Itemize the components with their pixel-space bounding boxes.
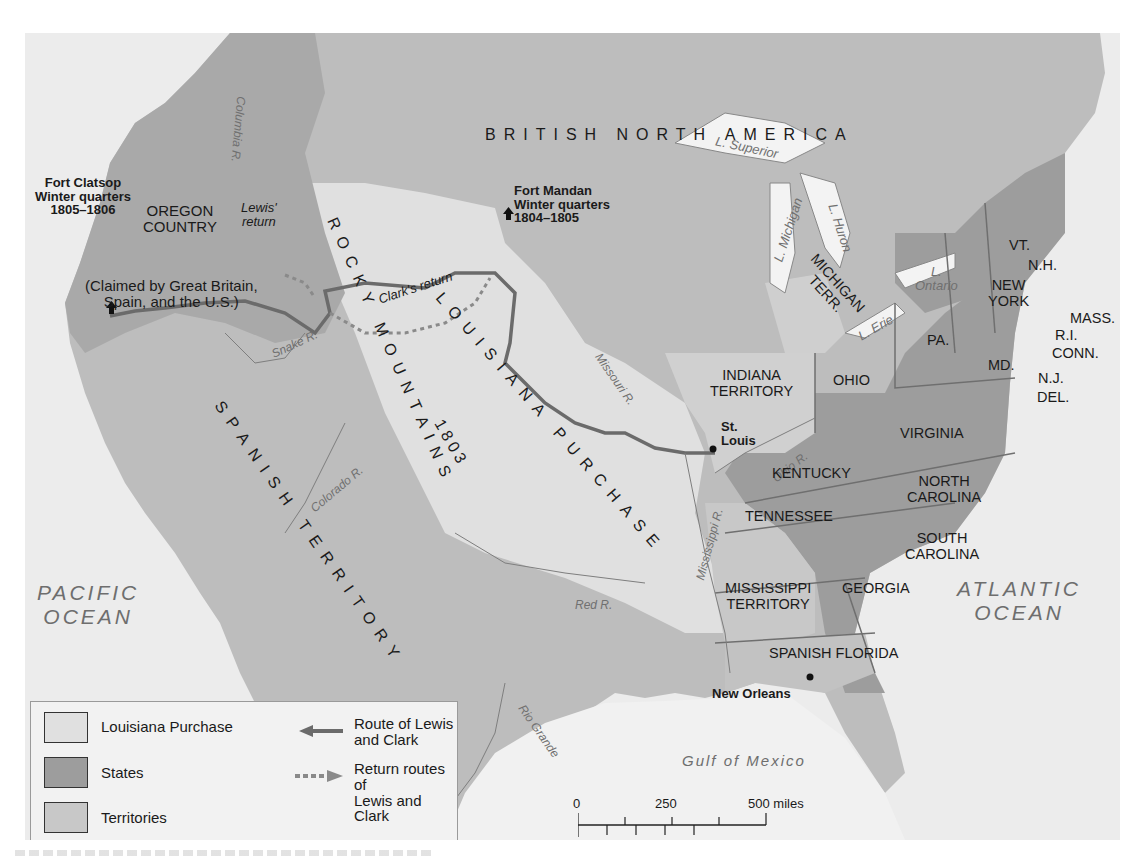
map-canvas: BRITISH NORTH AMERICA Fort Clatsop Winte… — [25, 33, 1120, 840]
label-maryland: MD. — [988, 358, 1015, 374]
label-fort-clatsop: Fort Clatsop Winter quarters 1805–1806 — [35, 176, 131, 217]
label-vermont: VT. — [1009, 238, 1030, 254]
label-oregon-country: OREGON COUNTRY — [143, 203, 217, 235]
label-pacific-ocean: PACIFIC OCEAN — [37, 581, 139, 629]
legend-swatch-states — [44, 757, 88, 788]
scale-miles-0: 0 — [573, 796, 580, 811]
legend-swatch-territories — [44, 802, 88, 833]
legend-label-louisiana: Louisiana Purchase — [101, 719, 233, 735]
label-pennsylvania: PA. — [927, 333, 949, 349]
label-mississippi-territory: MISSISSIPPI TERRITORY — [725, 581, 811, 613]
map-legend: Louisiana Purchase States Territories Ro… — [30, 701, 458, 840]
label-delaware: DEL. — [1037, 390, 1069, 406]
label-south-carolina: SOUTH CAROLINA — [905, 531, 979, 563]
scale-bar: 0 250 500 miles 0 250 500 kilometers — [578, 796, 818, 840]
label-gulf-of-mexico: Gulf of Mexico — [682, 752, 806, 769]
label-red-river: Red R. — [575, 599, 612, 612]
label-ohio: OHIO — [833, 373, 870, 389]
label-kentucky: KENTUCKY — [772, 466, 851, 482]
legend-return-route-arrow-icon — [293, 769, 343, 783]
scale-ticks — [578, 812, 778, 840]
label-virginia: VIRGINIA — [900, 426, 964, 442]
label-tennessee: TENNESSEE — [745, 509, 833, 525]
label-connecticut: CONN. — [1052, 346, 1099, 362]
label-georgia: GEORGIA — [842, 581, 910, 597]
label-spanish-florida: SPANISH FLORIDA — [769, 646, 898, 662]
label-lewis-return: Lewis' return — [241, 201, 277, 228]
scale-miles-500: 500 miles — [748, 796, 804, 811]
label-new-york: NEW YORK — [988, 278, 1029, 310]
label-indiana-territory: INDIANA TERRITORY — [710, 368, 793, 400]
legend-label-route: Route of Lewis and Clark — [354, 716, 453, 748]
legend-swatch-louisiana — [44, 712, 88, 743]
legend-route-arrow-icon — [299, 724, 345, 738]
label-lake-ontario: L. Ontario — [915, 265, 958, 292]
label-atlantic-ocean: ATLANTIC OCEAN — [957, 577, 1081, 625]
scale-km-0: 0 — [573, 838, 580, 840]
legend-label-territories: Territories — [101, 810, 167, 826]
label-new-orleans: New Orleans — [712, 687, 791, 701]
label-massachusetts: MASS. — [1070, 311, 1115, 327]
label-rhode-island: R.I. — [1055, 328, 1078, 344]
label-st-louis: St. Louis — [721, 420, 756, 447]
scale-miles-250: 250 — [655, 796, 677, 811]
caption-cutoff — [15, 850, 435, 856]
scale-km-500: 500 kilometers — [681, 838, 766, 840]
label-new-hampshire: N.H. — [1028, 258, 1057, 274]
legend-label-return-route: Return routes of Lewis and Clark — [354, 761, 457, 824]
label-north-carolina: NORTH CAROLINA — [907, 474, 981, 506]
label-oregon-claim: (Claimed by Great Britain, Spain, and th… — [85, 278, 258, 310]
label-new-jersey: N.J. — [1038, 371, 1064, 387]
legend-label-states: States — [101, 765, 144, 781]
label-british-north-america: BRITISH NORTH AMERICA — [485, 127, 854, 144]
label-fort-mandan: Fort Mandan Winter quarters 1804–1805 — [514, 184, 610, 225]
scale-km-250: 250 — [621, 838, 643, 840]
